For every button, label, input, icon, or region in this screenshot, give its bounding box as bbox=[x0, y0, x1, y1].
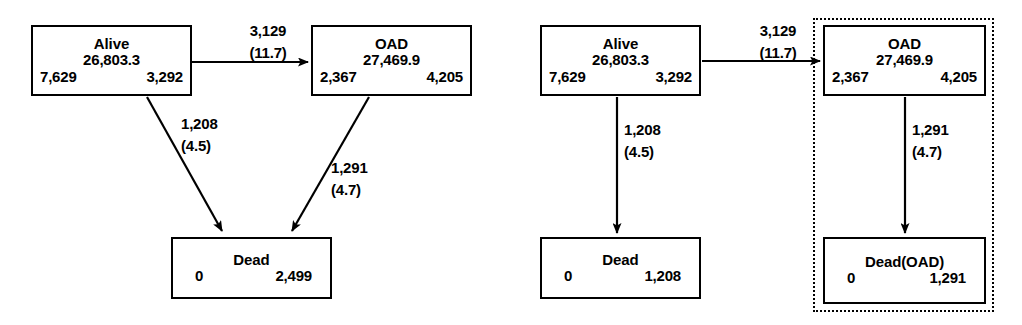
node-count-pair: 2,367 4,205 bbox=[313, 69, 470, 86]
node-total: 26,803.3 bbox=[542, 52, 699, 69]
node-count-pair: 0 2,499 bbox=[173, 268, 330, 285]
node-total: 26,803.3 bbox=[33, 52, 190, 69]
node-total: 27,469.9 bbox=[313, 52, 470, 69]
edge-label-oad-to-dead-left: 1,291 (4.7) bbox=[331, 157, 368, 201]
node-right-count: 4,205 bbox=[426, 69, 463, 86]
node-right-count: 1,208 bbox=[644, 268, 681, 285]
node-left-count: 7,629 bbox=[549, 69, 586, 86]
node-left-count: 2,367 bbox=[320, 69, 357, 86]
node-right-count: 2,499 bbox=[275, 268, 312, 285]
node-title: Alive bbox=[542, 36, 699, 52]
node-title: OAD bbox=[825, 36, 984, 52]
node-count-pair: 0 1,208 bbox=[542, 268, 699, 285]
node-alive-left[interactable]: Alive 26,803.3 7,629 3,292 bbox=[31, 25, 192, 96]
node-right-count: 1,291 bbox=[929, 270, 966, 287]
node-oad-right[interactable]: OAD 27,469.9 2,367 4,205 bbox=[823, 25, 986, 96]
edge-rate: (4.5) bbox=[624, 141, 661, 163]
node-left-count: 0 bbox=[195, 268, 203, 285]
node-title: OAD bbox=[313, 36, 470, 52]
edge-count: 1,291 bbox=[912, 119, 949, 141]
edge-label-alive-to-dead-right: 1,208 (4.5) bbox=[624, 119, 661, 163]
node-title: Alive bbox=[33, 36, 190, 52]
node-count-pair: 7,629 3,292 bbox=[542, 69, 699, 86]
node-count-pair: 7,629 3,292 bbox=[33, 69, 190, 86]
node-dead-right[interactable]: Dead 0 1,208 bbox=[540, 237, 701, 299]
edge-rate: (11.7) bbox=[222, 42, 314, 64]
diagram-root: Alive 26,803.3 7,629 3,292 OAD 27,469.9 … bbox=[0, 0, 1022, 325]
node-oad-left[interactable]: OAD 27,469.9 2,367 4,205 bbox=[311, 25, 472, 96]
node-left-count: 7,629 bbox=[40, 69, 77, 86]
node-count-pair: 0 1,291 bbox=[825, 270, 984, 287]
node-title: Dead bbox=[173, 252, 330, 268]
edge-rate: (4.7) bbox=[912, 141, 949, 163]
edge-count: 3,129 bbox=[732, 20, 824, 42]
node-dead-left[interactable]: Dead 0 2,499 bbox=[171, 237, 332, 299]
node-total: 27,469.9 bbox=[825, 52, 984, 69]
node-right-count: 3,292 bbox=[655, 69, 692, 86]
node-title: Dead(OAD) bbox=[825, 254, 984, 270]
node-left-count: 0 bbox=[847, 270, 855, 287]
edge-count: 1,208 bbox=[624, 119, 661, 141]
node-title: Dead bbox=[542, 252, 699, 268]
node-right-count: 3,292 bbox=[146, 69, 183, 86]
edge-rate: (4.7) bbox=[331, 179, 368, 201]
edge-rate: (4.5) bbox=[181, 135, 218, 157]
edge-count: 1,208 bbox=[181, 113, 218, 135]
edge-label-alive-to-oad-left: 3,129 (11.7) bbox=[222, 20, 314, 64]
node-left-count: 0 bbox=[564, 268, 572, 285]
node-left-count: 2,367 bbox=[832, 69, 869, 86]
node-right-count: 4,205 bbox=[940, 69, 977, 86]
edge-rate: (11.7) bbox=[732, 42, 824, 64]
edge-label-alive-to-oad-right: 3,129 (11.7) bbox=[732, 20, 824, 64]
node-alive-right[interactable]: Alive 26,803.3 7,629 3,292 bbox=[540, 25, 701, 96]
edge-count: 3,129 bbox=[222, 20, 314, 42]
node-dead-oad-right[interactable]: Dead(OAD) 0 1,291 bbox=[823, 237, 986, 304]
edge-label-alive-to-dead-left: 1,208 (4.5) bbox=[181, 113, 218, 157]
edge-count: 1,291 bbox=[331, 157, 368, 179]
edge-label-oad-to-dead-oad-right: 1,291 (4.7) bbox=[912, 119, 949, 163]
node-count-pair: 2,367 4,205 bbox=[825, 69, 984, 86]
